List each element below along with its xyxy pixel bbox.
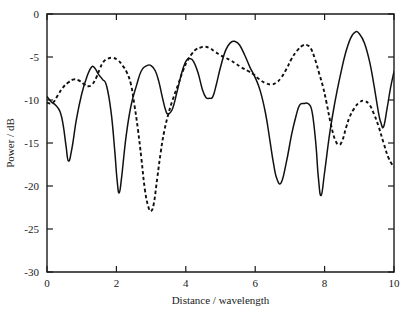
x-tick-label: 2	[114, 277, 120, 289]
x-tick-label: 4	[183, 277, 189, 289]
x-tick-label: 8	[322, 277, 328, 289]
x-tick-label: 0	[44, 277, 50, 289]
x-tick-label: 10	[389, 277, 401, 289]
figure-background	[0, 0, 410, 310]
y-tick-label: -15	[24, 137, 39, 149]
x-axis-title: Distance / wavelength	[172, 294, 270, 306]
x-tick-label: 6	[252, 277, 258, 289]
y-tick-label: -5	[30, 51, 40, 63]
y-tick-label: -10	[24, 94, 39, 106]
y-tick-label: 0	[34, 8, 40, 20]
y-tick-label: -20	[24, 180, 39, 192]
power-vs-distance-chart: 0246810 0-5-10-15-20-25-30 Distance / wa…	[0, 0, 410, 310]
y-tick-label: -25	[24, 223, 39, 235]
y-axis-title: Power / dB	[4, 118, 16, 168]
chart-figure: 0246810 0-5-10-15-20-25-30 Distance / wa…	[0, 0, 410, 310]
y-tick-label: -30	[24, 266, 39, 278]
